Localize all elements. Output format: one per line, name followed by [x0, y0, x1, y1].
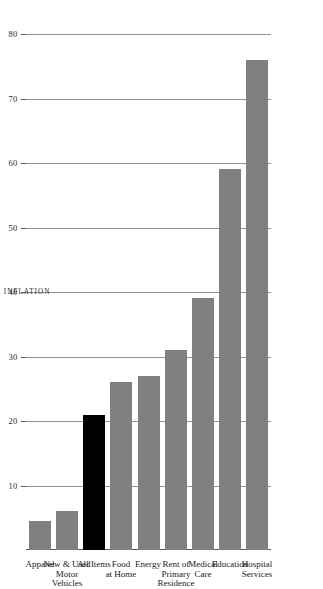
tick-label: 70 [8, 94, 18, 103]
bar [246, 60, 268, 550]
bar-row [217, 34, 244, 550]
category-label-line: at Home [106, 570, 137, 580]
category-label-text: Energy [136, 560, 162, 570]
category-label-line: Services [242, 570, 273, 580]
bar-row [53, 34, 80, 550]
tick-label: 60 [8, 159, 18, 168]
tick-label: 80 [8, 30, 18, 39]
bar-row [162, 34, 189, 550]
bar-row [189, 34, 216, 550]
tick-label: 30 [8, 352, 18, 361]
bar-row [244, 34, 271, 550]
tick-label-text: 50 [9, 223, 18, 233]
bar [29, 521, 51, 550]
tick-label-text: 20 [9, 416, 18, 426]
bar [219, 169, 241, 550]
axis-title-text: TEN-YEAR CUMULATIVE INFLATION [0, 288, 50, 296]
bar-row [80, 34, 107, 550]
category-label-line: Residence [157, 579, 194, 589]
bar-row [108, 34, 135, 550]
bar-row [135, 34, 162, 550]
category-label-text: Apparel [25, 560, 54, 570]
bar [138, 376, 160, 550]
bar [110, 382, 132, 550]
tick-label-text: 60 [9, 158, 18, 168]
bar [83, 415, 105, 550]
tick-label: 20 [8, 417, 18, 426]
tick-label-text: 10 [9, 481, 18, 491]
bar [56, 511, 78, 550]
category-label-text: Rent ofPrimaryResidence [157, 560, 194, 589]
tick-label: 50 [8, 223, 18, 232]
bar [165, 350, 187, 550]
tick-label: 10 [8, 481, 18, 490]
bar [192, 298, 214, 550]
category-label-line: Vehicles [43, 579, 90, 589]
plot-area: 8070605040302010 HospitalServicesEducati… [26, 34, 271, 550]
category-label-line: Apparel [25, 560, 54, 570]
tick-label-text: 30 [9, 352, 18, 362]
tick-label-text: 70 [9, 94, 18, 104]
tick-label-text: 80 [9, 29, 18, 39]
category-label-line: Energy [136, 560, 162, 570]
